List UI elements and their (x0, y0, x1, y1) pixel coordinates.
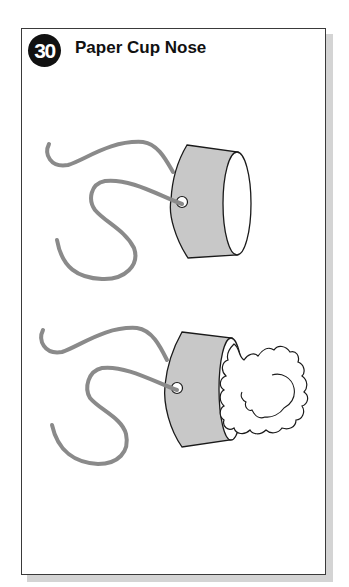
string-lower (52, 368, 177, 464)
string-lower (57, 181, 182, 279)
cup-opening (223, 152, 251, 255)
illustration-cup-with-string (47, 142, 251, 279)
illustration-cup-with-tissue (41, 328, 307, 464)
string-upper (47, 142, 173, 172)
illustration-canvas (0, 0, 349, 587)
string-upper (41, 328, 167, 360)
